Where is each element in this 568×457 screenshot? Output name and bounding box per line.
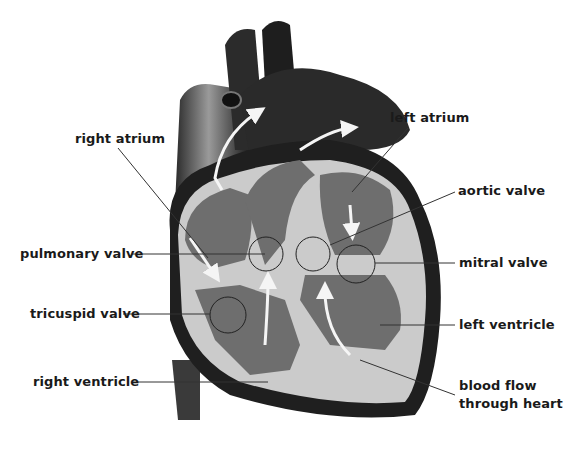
label-left-atrium: left atrium [390, 110, 469, 126]
label-tricuspid-valve: tricuspid valve [30, 306, 140, 322]
label-blood-flow-line2: through heart [459, 396, 563, 412]
label-left-ventricle: left ventricle [459, 317, 555, 333]
label-blood-flow-line1: blood flow [459, 378, 537, 394]
label-right-atrium: right atrium [75, 131, 165, 147]
left-atrium-chamber [320, 172, 394, 255]
label-pulmonary-valve: pulmonary valve [20, 246, 143, 262]
label-right-ventricle: right ventricle [33, 374, 139, 390]
heart-body [170, 140, 441, 418]
label-aortic-valve: aortic valve [458, 183, 545, 199]
label-mitral-valve: mitral valve [459, 255, 548, 271]
